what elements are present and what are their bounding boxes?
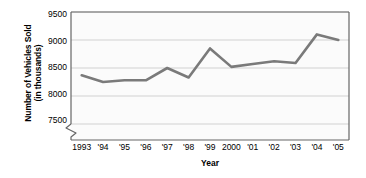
x-tick-label: '97 [162, 142, 173, 152]
x-axis-tick-labels: 1993'94'95'96'97'98'992000'01'02'03'04'0… [71, 142, 349, 156]
x-tick-label: 2000 [222, 142, 241, 152]
plot-background [71, 12, 349, 140]
x-tick-label: 1993 [72, 142, 91, 152]
x-tick-label: '95 [119, 142, 130, 152]
x-tick-label: '01 [247, 142, 258, 152]
x-tick-label: '96 [140, 142, 151, 152]
x-tick-label: '05 [333, 142, 344, 152]
x-tick-label: '94 [98, 142, 109, 152]
x-tick-label: '02 [269, 142, 280, 152]
line-chart: Number of Vehicles Sold (in thousands) 9… [0, 0, 366, 178]
x-tick-label: '03 [290, 142, 301, 152]
x-axis-title: Year [71, 158, 349, 168]
x-tick-label: '98 [183, 142, 194, 152]
x-tick-label: '04 [311, 142, 322, 152]
x-tick-label: '99 [204, 142, 215, 152]
